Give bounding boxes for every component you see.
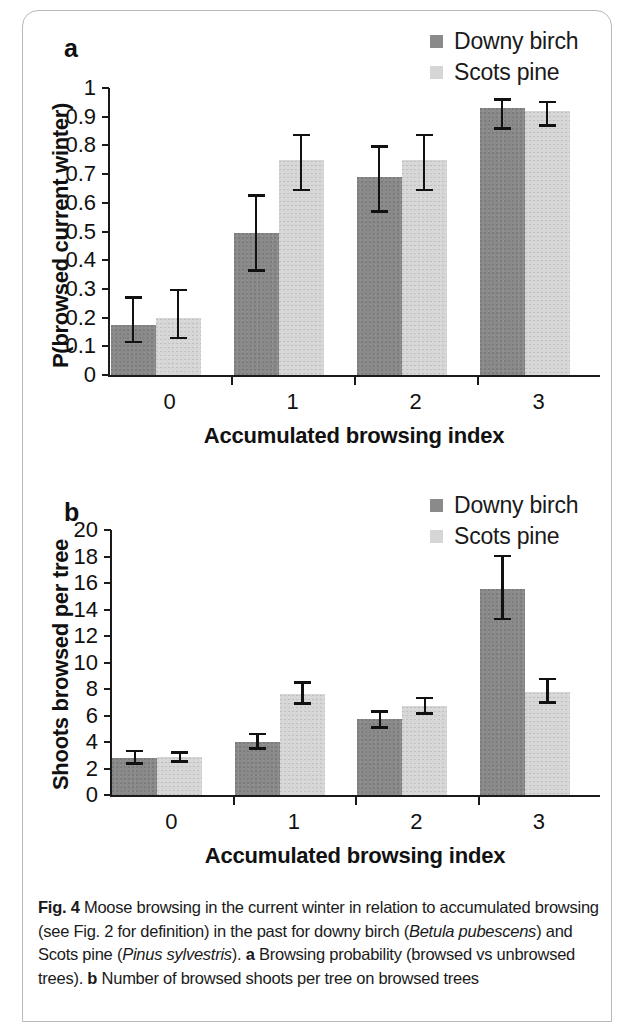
figure-4: a Downy birchScots pine 00.10.20.30.40.5… bbox=[0, 0, 627, 1033]
error-bar-cap-top bbox=[293, 134, 310, 137]
error-bar bbox=[156, 289, 201, 339]
y-tick bbox=[104, 635, 111, 637]
error-bar-cap-top bbox=[248, 194, 265, 197]
x-tick-label: 1 bbox=[288, 809, 300, 835]
y-tick bbox=[104, 556, 111, 558]
error-bar-cap-bottom bbox=[126, 762, 143, 765]
x-tick-label: 2 bbox=[410, 809, 422, 835]
caption-segment: Fig. 4 bbox=[38, 898, 80, 916]
error-bar-cap-top bbox=[416, 134, 433, 137]
x-tick-label: 2 bbox=[409, 389, 421, 415]
y-tick bbox=[102, 231, 109, 233]
y-tick bbox=[104, 741, 111, 743]
error-bar-cap-bottom bbox=[125, 341, 142, 344]
y-tick bbox=[102, 144, 109, 146]
caption-segment: Number of browsed shoots per tree on bro… bbox=[97, 969, 479, 987]
error-bar bbox=[402, 134, 447, 191]
error-bar-stem bbox=[546, 101, 549, 127]
error-bar-cap-top bbox=[170, 289, 187, 292]
y-tick bbox=[104, 688, 111, 690]
error-bar-cap-bottom bbox=[371, 210, 388, 213]
y-tick bbox=[104, 662, 111, 664]
x-tick-label: 3 bbox=[532, 389, 544, 415]
bar bbox=[357, 719, 402, 795]
error-bar-cap-bottom bbox=[416, 712, 433, 715]
error-bar-cap-top bbox=[539, 101, 556, 104]
y-tick bbox=[102, 87, 109, 89]
error-bar-cap-bottom bbox=[539, 701, 556, 704]
bar bbox=[525, 692, 570, 795]
error-bar-stem bbox=[501, 98, 504, 130]
error-bar bbox=[480, 98, 525, 130]
error-bar bbox=[402, 697, 447, 715]
x-tick bbox=[354, 377, 356, 385]
bar bbox=[279, 160, 324, 375]
error-bar-stem bbox=[255, 194, 258, 271]
error-bar-cap-bottom bbox=[249, 747, 266, 750]
error-bar-cap-top bbox=[249, 733, 266, 736]
error-bar-cap-bottom bbox=[170, 337, 187, 340]
x-axis-title: Accumulated browsing index bbox=[205, 843, 505, 869]
caption-segment: Betula pubescens bbox=[409, 922, 536, 940]
error-bar bbox=[279, 134, 324, 191]
error-bar-cap-top bbox=[494, 98, 511, 101]
error-bar bbox=[157, 751, 202, 762]
y-tick bbox=[104, 768, 111, 770]
figure-caption: Fig. 4 Moose browsing in the current win… bbox=[38, 896, 600, 990]
error-bar bbox=[480, 555, 525, 621]
x-tick bbox=[477, 377, 479, 385]
error-bar-cap-bottom bbox=[293, 189, 310, 192]
error-bar-stem bbox=[378, 145, 381, 212]
error-bar bbox=[234, 194, 279, 271]
x-tick bbox=[231, 377, 233, 385]
error-bar bbox=[280, 681, 325, 705]
error-bar-stem bbox=[546, 678, 549, 704]
bar bbox=[525, 111, 570, 375]
x-tick bbox=[233, 797, 235, 805]
caption-segment: b bbox=[87, 969, 97, 987]
error-bar-cap-top bbox=[539, 678, 556, 681]
error-bar bbox=[111, 296, 156, 343]
y-axis-title: P(browsed current winter) bbox=[48, 103, 74, 368]
error-bar bbox=[235, 733, 280, 750]
y-axis-title: Shoots browsed per tree bbox=[48, 539, 74, 790]
caption-segment: ). bbox=[232, 945, 246, 963]
error-bar-cap-top bbox=[494, 555, 511, 558]
x-tick-label: 1 bbox=[286, 389, 298, 415]
error-bar-stem bbox=[301, 681, 304, 705]
error-bar-stem bbox=[300, 134, 303, 191]
caption-segment: a bbox=[246, 945, 255, 963]
y-tick-label: 1 bbox=[30, 75, 96, 101]
error-bar-cap-top bbox=[126, 750, 143, 753]
x-tick-label: 0 bbox=[165, 809, 177, 835]
error-bar-stem bbox=[132, 296, 135, 343]
caption-segment: Pinus sylvestris bbox=[122, 945, 232, 963]
x-tick bbox=[355, 797, 357, 805]
bar bbox=[280, 694, 325, 795]
x-axis-title: Accumulated browsing index bbox=[204, 423, 504, 449]
y-tick bbox=[102, 116, 109, 118]
error-bar bbox=[525, 678, 570, 704]
bar bbox=[402, 706, 447, 795]
y-tick bbox=[104, 529, 111, 531]
bar bbox=[235, 742, 280, 795]
x-tick bbox=[478, 797, 480, 805]
error-bar-cap-top bbox=[416, 697, 433, 700]
panel-b: b Downy birchScots pine 0246810121416182… bbox=[0, 460, 627, 880]
panel-a: a Downy birchScots pine 00.10.20.30.40.5… bbox=[0, 0, 627, 450]
y-tick bbox=[104, 715, 111, 717]
error-bar-cap-bottom bbox=[539, 124, 556, 127]
error-bar bbox=[357, 710, 402, 729]
error-bar bbox=[112, 750, 157, 765]
y-tick bbox=[104, 582, 111, 584]
y-tick bbox=[104, 609, 111, 611]
error-bar bbox=[525, 101, 570, 127]
y-tick bbox=[102, 259, 109, 261]
y-tick bbox=[102, 173, 109, 175]
error-bar-cap-top bbox=[371, 145, 388, 148]
error-bar-stem bbox=[177, 289, 180, 339]
y-tick bbox=[102, 317, 109, 319]
error-bar-cap-bottom bbox=[248, 269, 265, 272]
bar bbox=[480, 108, 525, 375]
panel-a-plot: 00.10.20.30.40.50.60.70.80.910123Accumul… bbox=[0, 0, 627, 450]
